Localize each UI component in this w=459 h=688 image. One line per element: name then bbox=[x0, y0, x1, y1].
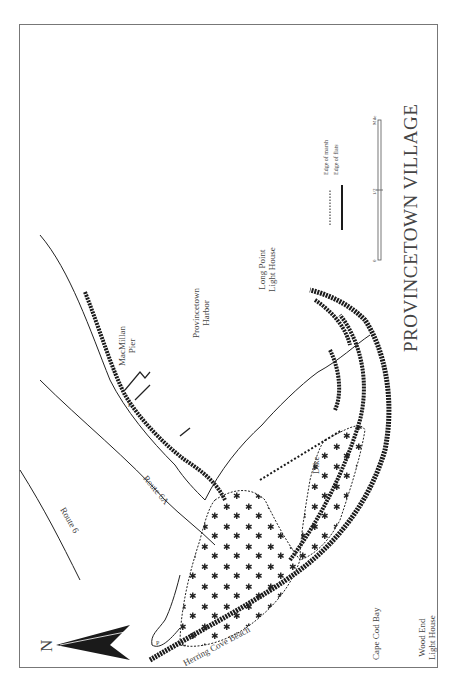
legend-marsh-label: Edge of marsh bbox=[323, 140, 330, 175]
town-pier bbox=[135, 385, 150, 400]
town-shoreline bbox=[40, 235, 205, 500]
map-drawing: ✱ ✱ bbox=[0, 0, 459, 688]
scale-tick-half: 1/2 bbox=[372, 189, 378, 195]
coast-guard-pier bbox=[180, 428, 190, 436]
scale-tick-0: 0 bbox=[372, 260, 378, 263]
north-arrow bbox=[56, 625, 130, 660]
label-long-point-light: Long Point Light House bbox=[258, 247, 278, 292]
label-parking-1: P bbox=[128, 402, 131, 409]
label-provincetown-harbor: Provincetown Harbor bbox=[192, 288, 212, 338]
map-title: PROVINCETOWN VILLAGE bbox=[400, 104, 422, 352]
north-label: N bbox=[38, 640, 57, 652]
macmillan-pier bbox=[125, 372, 150, 390]
herring-cove-road bbox=[152, 575, 180, 646]
label-parking-2: P bbox=[156, 640, 159, 647]
marsh-area-west bbox=[180, 491, 300, 647]
label-wood-end-light: Wood End Light House bbox=[418, 615, 438, 660]
label-cape-cod-bay: Cape Cod Bay bbox=[372, 608, 382, 661]
legend-flats-label: Edge of flats bbox=[333, 144, 340, 175]
label-dike: Dike bbox=[312, 457, 322, 475]
label-macmillan-pier: MacMillan Pier bbox=[118, 326, 138, 366]
scale-tick-mile: Mile bbox=[372, 116, 378, 125]
